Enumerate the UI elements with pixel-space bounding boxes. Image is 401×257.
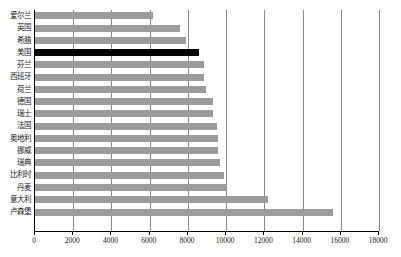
bar-chart: 爱尔兰英国希腊美国芬兰西班牙荷兰德国瑞士法国奥地利挪威瑞典比利时丹麦意大利卢森堡… — [0, 0, 401, 257]
category-label-法国: 法国 — [0, 120, 33, 132]
category-label-丹麦: 丹麦 — [0, 182, 33, 194]
tick-10000 — [225, 231, 226, 235]
chart-title — [0, 0, 401, 1]
bar-row — [35, 10, 379, 22]
bar-瑞士 — [35, 110, 213, 117]
value-axis-labels: 0200040006000800010000120001400016000180… — [0, 236, 401, 248]
value-axis-label-6000: 6000 — [141, 236, 156, 246]
category-label-卢森堡: 卢森堡 — [0, 206, 33, 218]
category-label-英国: 英国 — [0, 22, 33, 34]
category-label-挪威: 挪威 — [0, 145, 33, 157]
bar-row — [35, 182, 379, 194]
value-axis-label-8000: 8000 — [179, 236, 194, 246]
bar-row — [35, 145, 379, 157]
value-axis-label-4000: 4000 — [103, 236, 118, 246]
bar-row — [35, 194, 379, 206]
bar-row — [35, 35, 379, 47]
bar-卢森堡 — [35, 209, 333, 216]
bar-芬兰 — [35, 61, 204, 68]
value-axis-label-14000: 14000 — [292, 236, 311, 246]
bar-法国 — [35, 123, 217, 130]
category-label-芬兰: 芬兰 — [0, 59, 33, 71]
bar-奥地利 — [35, 135, 218, 142]
bar-英国 — [35, 25, 180, 32]
category-label-西班牙: 西班牙 — [0, 71, 33, 83]
gridline-18000 — [379, 10, 380, 231]
bar-row — [35, 71, 379, 83]
bar-row — [35, 84, 379, 96]
bar-荷兰 — [35, 86, 206, 93]
tick-16000 — [340, 231, 341, 235]
category-label-希腊: 希腊 — [0, 35, 33, 47]
tick-0 — [34, 231, 35, 235]
bar-瑞典 — [35, 159, 220, 166]
bar-比利时 — [35, 172, 224, 179]
category-label-奥地利: 奥地利 — [0, 133, 33, 145]
bar-row — [35, 133, 379, 145]
category-label-爱尔兰: 爱尔兰 — [0, 10, 33, 22]
bar-rows — [35, 10, 379, 231]
plot-area — [34, 10, 379, 232]
value-axis-label-10000: 10000 — [216, 236, 235, 246]
bar-row — [35, 157, 379, 169]
value-axis-label-12000: 12000 — [254, 236, 273, 246]
tick-18000 — [378, 231, 379, 235]
tick-4000 — [110, 231, 111, 235]
category-label-比利时: 比利时 — [0, 169, 33, 181]
category-label-瑞典: 瑞典 — [0, 157, 33, 169]
tick-2000 — [72, 231, 73, 235]
bar-row — [35, 96, 379, 108]
value-axis-label-16000: 16000 — [330, 236, 349, 246]
bar-挪威 — [35, 147, 218, 154]
bar-row — [35, 206, 379, 218]
category-label-荷兰: 荷兰 — [0, 84, 33, 96]
value-axis-label-18000: 18000 — [369, 236, 388, 246]
category-label-瑞士: 瑞士 — [0, 108, 33, 120]
bar-德国 — [35, 98, 213, 105]
value-axis-label-2000: 2000 — [65, 236, 80, 246]
bar-希腊 — [35, 37, 186, 44]
category-label-意大利: 意大利 — [0, 194, 33, 206]
bar-row — [35, 108, 379, 120]
value-axis-label-0: 0 — [32, 236, 36, 246]
tick-14000 — [302, 231, 303, 235]
tick-12000 — [263, 231, 264, 235]
bar-丹麦 — [35, 184, 227, 191]
bar-row — [35, 169, 379, 181]
bar-row — [35, 22, 379, 34]
bar-row — [35, 59, 379, 71]
bar-西班牙 — [35, 74, 204, 81]
bar-意大利 — [35, 196, 268, 203]
tick-6000 — [149, 231, 150, 235]
category-axis-labels: 爱尔兰英国希腊美国芬兰西班牙荷兰德国瑞士法国奥地利挪威瑞典比利时丹麦意大利卢森堡 — [0, 10, 33, 231]
bar-row — [35, 120, 379, 132]
bar-row — [35, 47, 379, 59]
bar-爱尔兰 — [35, 12, 153, 19]
tick-8000 — [187, 231, 188, 235]
category-label-德国: 德国 — [0, 96, 33, 108]
bar-美国 — [35, 49, 199, 56]
category-label-美国: 美国 — [0, 47, 33, 59]
